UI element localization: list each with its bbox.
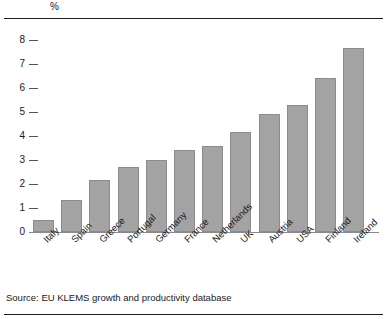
chart-figure: % 012345678 ItalySpainGreecePortugalGerm… bbox=[0, 0, 387, 319]
y-axis-tick-mark bbox=[29, 208, 38, 209]
y-axis-tick-label: 2 bbox=[16, 178, 25, 190]
y-axis-tick-label: 6 bbox=[16, 82, 25, 94]
y-axis-tick: 2 bbox=[16, 178, 42, 190]
y-axis-tick-mark bbox=[29, 40, 38, 41]
y-axis-tick: 6 bbox=[16, 82, 42, 94]
y-axis-tick-mark bbox=[29, 160, 38, 161]
y-axis-tick-mark bbox=[29, 136, 38, 137]
y-axis-tick: 1 bbox=[16, 202, 42, 214]
y-axis-tick: 4 bbox=[16, 130, 42, 142]
y-axis-tick-label: 1 bbox=[16, 202, 25, 214]
bottom-rule-divider bbox=[4, 314, 383, 315]
bar bbox=[259, 114, 280, 232]
y-axis-tick-mark bbox=[29, 112, 38, 113]
y-axis-tick-label: 7 bbox=[16, 58, 25, 70]
y-axis-tick: 7 bbox=[16, 58, 42, 70]
bar bbox=[315, 78, 336, 232]
y-axis-tick-label: 3 bbox=[16, 154, 25, 166]
y-axis-tick-label: 8 bbox=[16, 34, 25, 46]
source-note: Source: EU KLEMS growth and productivity… bbox=[6, 292, 231, 304]
y-axis-tick: 8 bbox=[16, 34, 42, 46]
bar bbox=[343, 48, 364, 232]
y-axis-tick-label: 5 bbox=[16, 106, 25, 118]
y-axis-tick-mark bbox=[29, 184, 38, 185]
bar bbox=[89, 180, 110, 232]
plot-area: 012345678 ItalySpainGreecePortugalGerman… bbox=[0, 0, 387, 240]
y-axis-tick-label: 4 bbox=[16, 130, 25, 142]
y-axis-tick-mark bbox=[29, 88, 38, 89]
y-axis-tick: 5 bbox=[16, 106, 42, 118]
y-axis-tick-label: 0 bbox=[16, 226, 25, 238]
y-axis-tick: 3 bbox=[16, 154, 42, 166]
bar bbox=[287, 105, 308, 232]
y-axis-tick-mark bbox=[29, 64, 38, 65]
